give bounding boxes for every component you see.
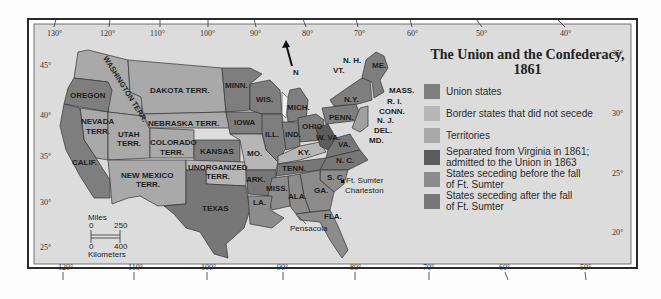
lon-label: 100° xyxy=(201,263,216,272)
lon-label: 130° xyxy=(47,29,62,38)
label-fla: FLA. xyxy=(324,212,342,221)
label-oregon: OREGON xyxy=(70,91,106,100)
legend-item-border: Border states that did not secede xyxy=(424,102,629,124)
north-label: N xyxy=(293,68,299,77)
label-nj: N. J. xyxy=(377,116,394,125)
lon-label: 50° xyxy=(580,263,591,272)
legend-item-union: Union states xyxy=(424,80,629,102)
label-utah: UTAH xyxy=(118,130,140,139)
legend-swatch xyxy=(424,150,440,165)
legend-label-line: of Ft. Sumter xyxy=(446,179,581,190)
legend-label: Border states that did not secede xyxy=(446,108,593,119)
label-minn: MINN. xyxy=(225,81,248,90)
label-nh: N. H. xyxy=(343,56,361,65)
bottom-ticks xyxy=(63,272,586,280)
legend-label: States seceding before the fall of Ft. S… xyxy=(446,168,581,190)
label-unorganized: UNORGANIZED xyxy=(188,163,248,172)
label-texas: TEXAS xyxy=(202,204,229,213)
label-ohio: OHIO xyxy=(302,122,322,131)
lon-label: 80° xyxy=(302,29,313,38)
label-calif: CALIF. xyxy=(72,158,97,167)
label-ft-sumter: Ft. Sumter xyxy=(346,176,384,185)
label-ky: KY. xyxy=(298,148,310,157)
label-pensacola: Pensacola xyxy=(290,224,328,233)
map-title-line2: 1861 xyxy=(426,62,629,77)
label-ga: GA. xyxy=(314,186,328,195)
scale-km-label: Kilometers xyxy=(88,250,126,259)
label-nc: N. C. xyxy=(336,156,354,165)
label-vt: VT. xyxy=(333,66,345,75)
scale-miles-0: 0 xyxy=(89,221,94,230)
label-ri: R. I. xyxy=(387,97,402,106)
legend-swatch xyxy=(424,106,440,121)
lat-label: 25° xyxy=(40,243,51,252)
label-mich: MICH. xyxy=(287,103,310,112)
legend-label: States seceding after the fall of Ft. Su… xyxy=(446,190,572,212)
lon-label: 90° xyxy=(277,263,288,272)
label-w-va: W. VA. xyxy=(316,133,340,142)
legend-item-territories: Territories xyxy=(424,124,629,146)
label-nebraska: NEBRASKA TERR. xyxy=(148,119,219,128)
lon-label: 90° xyxy=(250,29,261,38)
label-ind: IND. xyxy=(285,130,301,139)
label-la: LA. xyxy=(253,198,266,207)
label-ill: ILL. xyxy=(265,130,279,139)
label-new-mexico: NEW MEXICO xyxy=(121,171,173,180)
label-charleston: Charleston xyxy=(345,186,384,195)
lon-label: 40° xyxy=(560,29,571,38)
label-wis: WIS. xyxy=(256,95,273,104)
lon-label: 110° xyxy=(128,263,143,272)
label-conn: CONN. xyxy=(379,107,405,116)
lon-label: 120° xyxy=(58,263,73,272)
legend-label-line: States seceding before the fall xyxy=(446,168,581,179)
label-miss: MISS. xyxy=(266,184,288,193)
label-penn: PENN. xyxy=(329,113,353,122)
legend-label-line: admitted to the Union in 1863 xyxy=(446,157,589,168)
label-nevada: NEVADA xyxy=(81,117,114,126)
lat-label: 20° xyxy=(612,228,623,237)
label-va: VA. xyxy=(338,140,351,149)
map-title-line1: The Union and the Confederacy, xyxy=(426,47,629,62)
legend-label: Territories xyxy=(446,130,490,141)
legend-label: Union states xyxy=(446,86,502,97)
legend-swatch xyxy=(424,84,440,99)
label-colorado: TERR. xyxy=(160,148,184,157)
label-ark: ARK. xyxy=(246,175,266,184)
label-unorganized: TERR. xyxy=(206,172,230,181)
legend-label: Separated from Virginia in 1861; admitte… xyxy=(446,146,589,168)
label-tenn: TENN. xyxy=(282,164,306,173)
lon-label: 100° xyxy=(200,29,215,38)
legend-swatch xyxy=(424,172,440,187)
lon-label: 120° xyxy=(100,29,115,38)
label-ala: ALA. xyxy=(288,192,307,201)
lat-label: 40° xyxy=(40,111,51,120)
lon-label: 60° xyxy=(407,29,418,38)
label-del: DEL. xyxy=(374,126,392,135)
scale-miles-max: 250 xyxy=(114,221,128,230)
label-ny: N.Y. xyxy=(344,95,359,104)
lon-label: 80° xyxy=(350,263,361,272)
legend-item-seceding-after: States seceding after the fall of Ft. Su… xyxy=(424,190,629,212)
label-kansas: KANSAS xyxy=(200,147,234,156)
lon-label: 70° xyxy=(423,263,434,272)
map-title: The Union and the Confederacy, 1861 xyxy=(426,47,629,77)
legend: The Union and the Confederacy, 1861 Unio… xyxy=(424,47,629,212)
label-md: MD. xyxy=(369,136,384,145)
label-mo: MO. xyxy=(247,149,262,158)
legend-label-line: States seceding after the fall xyxy=(446,190,572,201)
lon-label: 110° xyxy=(150,29,165,38)
label-new-mexico: TERR. xyxy=(136,180,160,189)
lat-label: 45° xyxy=(40,61,51,70)
lon-label: 50° xyxy=(476,29,487,38)
lat-label: 35° xyxy=(40,152,51,161)
legend-label-line: Separated from Virginia in 1861; xyxy=(446,146,589,157)
lat-label: 30° xyxy=(40,198,51,207)
label-utah: TERR. xyxy=(117,139,141,148)
legend-item-west-virginia: Separated from Virginia in 1861; admitte… xyxy=(424,146,629,168)
label-iowa: IOWA xyxy=(234,118,256,127)
ft-sumter-marker xyxy=(341,180,344,183)
label-colorado: COLORADO xyxy=(150,138,197,147)
legend-swatch xyxy=(424,194,440,209)
legend-label-line: of Ft. Sumter xyxy=(446,201,572,212)
legend-swatch xyxy=(424,128,440,143)
